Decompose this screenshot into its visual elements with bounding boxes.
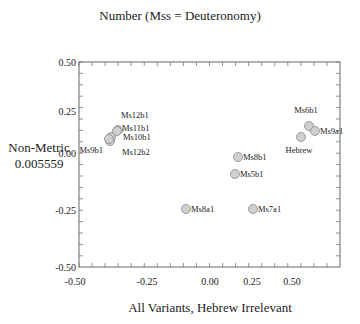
y-tick-label: 0.50: [59, 57, 77, 68]
x-tick-label: 0.25: [243, 276, 261, 287]
x-tick-label: -0.50: [65, 276, 86, 287]
data-point-marker: [234, 153, 243, 162]
data-point-label: Ms12b2: [122, 147, 150, 157]
y-tick-label: -0.50: [55, 262, 76, 273]
data-point-marker: [297, 133, 306, 142]
data-point-label: Ms8b1: [243, 152, 267, 162]
data-point-label: Ms9b1: [79, 145, 103, 155]
data-point-marker: [105, 135, 114, 144]
data-point-label: Ms5b1: [240, 169, 264, 179]
data-point-marker: [249, 205, 258, 214]
plot-frame: [79, 62, 340, 267]
axis-ticks: [79, 62, 340, 267]
data-point-label: Ms9a1: [320, 126, 343, 136]
data-point-label: Ms7a1: [258, 204, 281, 214]
data-points: Ms12b1Ms11b1Ms10b1Ms12b2Ms9b1Ms8b1Ms5b1M…: [79, 105, 343, 214]
data-point-label: Ms8a1: [191, 204, 214, 214]
data-point-marker: [311, 127, 320, 136]
y-tick-label: 0.00: [59, 148, 77, 159]
data-point-marker: [182, 205, 191, 214]
data-point-marker: [231, 170, 240, 179]
data-point-label: Hebrew: [286, 145, 314, 155]
y-tick-label: 0.25: [59, 106, 77, 117]
x-tick-label: 0.00: [201, 276, 219, 287]
x-tick-label: 0.50: [283, 276, 301, 287]
data-point-label: Ms6b1: [294, 105, 318, 115]
x-tick-label: -0.25: [137, 276, 158, 287]
y-tick-labels: 0.500.250.00-0.25-0.50: [55, 57, 76, 273]
x-tick-labels: -0.50-0.250.000.250.50: [65, 276, 301, 287]
data-point-label: Ms12b1: [121, 110, 149, 120]
data-point-label: Ms10b1: [123, 132, 151, 142]
y-tick-label: -0.25: [55, 205, 76, 216]
scatter-plot: 0.500.250.00-0.25-0.50 -0.50-0.250.000.2…: [0, 0, 360, 324]
